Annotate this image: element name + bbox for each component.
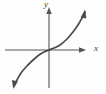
graph-canvas — [0, 0, 106, 94]
x-axis-arrowhead-icon — [79, 47, 86, 53]
x-axis-label: x — [94, 44, 98, 53]
graph-figure: x y — [0, 0, 106, 94]
curve-end-arrowhead-icon — [81, 10, 87, 19]
y-axis — [46, 7, 51, 88]
y-axis-label: y — [44, 0, 48, 9]
